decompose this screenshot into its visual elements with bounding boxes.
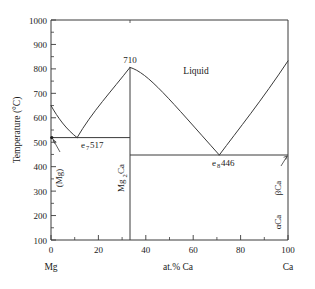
y-tick-label: 300: [34, 187, 48, 197]
y-tick-label: 500: [34, 138, 48, 148]
x-tick-label: 20: [94, 245, 104, 255]
liquid-region-label: Liquid: [183, 66, 209, 76]
mg-terminal-point-marker: [50, 136, 53, 139]
mg2ca-compound-label: Mg 2 Ca: [116, 164, 128, 192]
y-tick-label: 700: [34, 89, 48, 99]
y-tick-label: 200: [34, 211, 48, 221]
y-tick-label: 900: [34, 40, 48, 50]
phase-diagram-figure: 1000 900 800 700 600 500 400 300 200 100…: [0, 0, 315, 289]
right-endmember-label: Ca: [283, 262, 294, 272]
mg-solid-solution-pointer: [53, 140, 60, 153]
beta-ca-pointer: [281, 156, 287, 166]
x-tick-label: 40: [141, 245, 151, 255]
y-tick-label: 800: [34, 64, 48, 74]
e7-base: e: [81, 140, 85, 150]
e8-base: e: [212, 158, 216, 168]
x-tick-label: 0: [49, 245, 54, 255]
ca-liquidus-curve: [219, 61, 288, 155]
y-tick-labels: 1000 900 800 700 600 500 400 300 200 100: [29, 16, 48, 246]
e8-temperature: 446: [221, 158, 235, 168]
left-endmember-label: Mg: [44, 262, 57, 272]
y-tick-label: 1000: [29, 16, 48, 26]
e7-eutectic-label: e 7 517: [81, 140, 104, 152]
x-tick-label: 100: [281, 245, 295, 255]
phase-diagram-svg: 1000 900 800 700 600 500 400 300 200 100…: [0, 0, 315, 289]
congruent-melting-label: 710: [123, 55, 137, 65]
y-tick-label: 100: [34, 236, 48, 246]
mg2ca-liquidus-left-curve: [77, 67, 130, 137]
e8-subscript: 8: [217, 162, 220, 169]
plot-frame: [51, 20, 288, 240]
axes-border: [51, 20, 288, 240]
mg2ca-tail: Ca: [116, 164, 126, 174]
mg-solid-solution-label: (Mg): [54, 169, 64, 188]
e7-temperature: 517: [90, 140, 104, 150]
x-tick-label: 60: [189, 245, 199, 255]
alpha-ca-label: αCa: [273, 215, 283, 230]
y-tick-label: 400: [34, 162, 48, 172]
x-tick-labels: 0 20 40 60 80 100: [49, 245, 296, 255]
x-axis-title: at.% Ca: [163, 262, 194, 272]
y-axis-title: Temperature (°C): [12, 97, 23, 164]
mg2ca-base: Mg: [116, 179, 126, 192]
y-tick-label: 600: [34, 113, 48, 123]
mg-liquidus-curve: [51, 106, 77, 138]
x-tick-label: 80: [236, 245, 246, 255]
mg2ca-liquidus-right-curve: [130, 67, 219, 155]
beta-ca-label: βCa: [273, 181, 283, 196]
e8-eutectic-label: e 8 446: [212, 158, 235, 170]
